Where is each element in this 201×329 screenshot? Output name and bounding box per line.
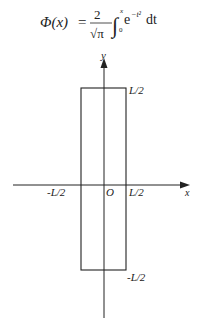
- origin-label: O: [106, 186, 114, 198]
- y-axis-label: y: [101, 49, 106, 61]
- left-edge-label: -L/2: [47, 186, 65, 198]
- bottom-edge-label: -L/2: [127, 271, 145, 283]
- top-edge-label: L/2: [129, 84, 144, 96]
- right-edge-label: L/2: [129, 186, 144, 198]
- x-axis-label: x: [185, 187, 189, 198]
